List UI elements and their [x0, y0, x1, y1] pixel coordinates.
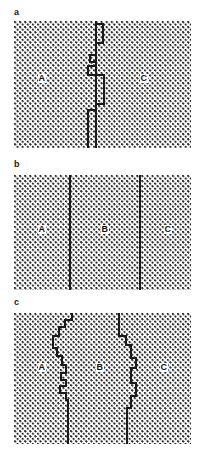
panel-a-letter: a: [14, 8, 19, 17]
panel-c-field: A B C: [14, 313, 191, 444]
figure-root: a A C b A B C: [0, 0, 205, 459]
panel-b-region-label-A: A: [38, 225, 46, 234]
panel-c-region-label-A: A: [38, 363, 46, 372]
panel-b-region-label-C: C: [164, 225, 172, 234]
panel-c-jagged-boundary-left: [53, 313, 72, 444]
panel-c: c A B C: [0, 295, 205, 459]
panel-b-field: A B C: [14, 175, 191, 290]
panel-a-ledge-5: [88, 110, 96, 148]
panel-a-ledge-1: [96, 24, 103, 43]
panel-a: a A C: [0, 0, 205, 155]
panel-b: b A B C: [0, 155, 205, 295]
panel-c-letter: c: [14, 298, 19, 307]
panel-a-ledge-2: [90, 55, 96, 62]
panel-c-region-label-B: B: [96, 363, 104, 372]
panel-b-letter: b: [14, 160, 20, 169]
panel-a-region-label-A: A: [38, 74, 46, 83]
panel-c-boundary-group: [14, 313, 191, 444]
panel-b-region-label-B: B: [101, 225, 109, 234]
panel-a-region-label-C: C: [140, 74, 148, 83]
panel-c-jagged-boundary-right: [119, 313, 136, 444]
panel-a-ledge-3: [88, 66, 96, 75]
panel-a-ledge-4: [96, 75, 104, 104]
panel-c-region-label-C: C: [160, 363, 168, 372]
panel-a-boundary-group: [14, 21, 191, 148]
panel-a-field: A C: [14, 21, 191, 148]
